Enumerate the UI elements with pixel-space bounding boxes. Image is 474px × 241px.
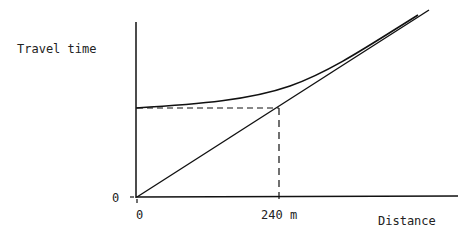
direct-line xyxy=(137,10,429,197)
y-zero-label: 0 xyxy=(112,191,119,205)
travel-time-chart: Travel time Distance 0 0 240 m xyxy=(0,0,474,241)
x-axis xyxy=(136,196,458,197)
x-mark-label: 240 m xyxy=(261,208,297,222)
y-axis-label: Travel time xyxy=(17,42,96,56)
x-axis-label: Distance xyxy=(378,214,436,228)
travel-time-curve xyxy=(136,15,418,108)
x-zero-label: 0 xyxy=(136,208,143,222)
